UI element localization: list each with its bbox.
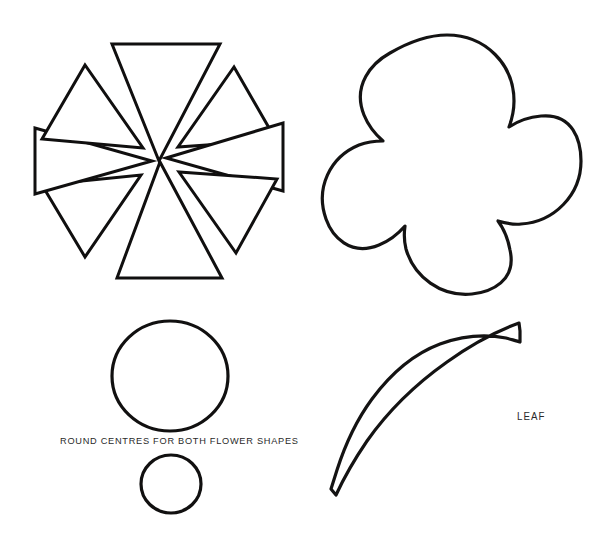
leaf-caption: LEAF — [517, 411, 546, 422]
round-flower-shape — [322, 35, 581, 294]
round-flower-outline — [322, 35, 581, 294]
leaf-outline — [331, 323, 520, 495]
large-centre-circle — [112, 321, 228, 431]
round-centres-caption: ROUND CENTRES FOR BOTH FLOWER SHAPES — [60, 435, 299, 446]
template-sheet: ROUND CENTRES FOR BOTH FLOWER SHAPES LEA… — [0, 0, 599, 546]
star-flower-shape — [35, 44, 283, 278]
leaf-shape — [331, 323, 520, 495]
small-centre-circle — [141, 455, 201, 513]
template-artwork — [0, 0, 599, 546]
